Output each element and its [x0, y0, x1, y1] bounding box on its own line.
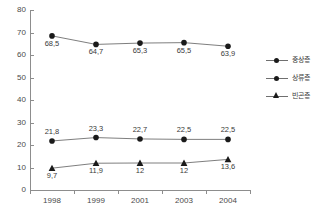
data-point-marker	[93, 42, 99, 48]
data-point-label: 21,8	[36, 128, 68, 136]
data-point-marker	[225, 137, 231, 143]
circle-marker-icon	[274, 58, 279, 63]
legend-item[interactable]: 상류층	[266, 70, 317, 88]
data-point-label: 22,5	[212, 126, 244, 134]
data-point-label: 12	[124, 167, 156, 175]
data-point-marker	[181, 137, 187, 143]
data-point-label: 22,5	[168, 126, 200, 134]
legend: 중상층상류층빈곤층	[266, 52, 317, 106]
circle-marker-icon	[274, 76, 279, 81]
data-point-label: 23,3	[80, 125, 112, 133]
legend-item-label: 빈곤층	[292, 91, 310, 100]
data-point-label: 65,3	[124, 47, 156, 55]
data-point-label: 12	[168, 167, 200, 175]
data-point-marker	[181, 40, 187, 46]
plot-area	[0, 0, 317, 215]
data-point-marker	[137, 136, 143, 142]
data-point-label: 68,5	[36, 40, 68, 48]
data-point-marker	[93, 135, 99, 141]
data-point-marker	[137, 40, 143, 46]
data-point-label: 22,7	[124, 126, 156, 134]
legend-item-label: 상류층	[292, 73, 310, 82]
data-point-label: 65,5	[168, 47, 200, 55]
legend-item[interactable]: 빈곤층	[266, 88, 317, 106]
data-point-label: 11,9	[80, 167, 112, 175]
data-point-label: 63,9	[212, 50, 244, 58]
data-point-label: 64,7	[80, 48, 112, 56]
legend-item[interactable]: 중상층	[266, 52, 317, 70]
data-point-label: 13,6	[212, 163, 244, 171]
data-point-label: 9,7	[36, 172, 68, 180]
data-point-marker	[49, 138, 55, 144]
legend-item-label: 중상층	[292, 55, 310, 64]
line-chart: 80706050403020100 19981999200120032004 6…	[0, 0, 317, 215]
data-point-marker	[49, 33, 55, 39]
data-point-marker	[225, 43, 231, 49]
triangle-marker-icon	[273, 92, 279, 98]
